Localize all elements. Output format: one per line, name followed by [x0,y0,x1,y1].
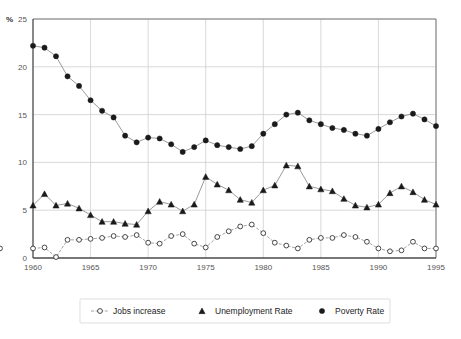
data-point [261,231,266,236]
data-point [157,198,163,204]
data-point [88,98,93,103]
data-point [203,138,208,143]
data-point [100,236,105,241]
series-unemployment-rate [30,162,439,227]
data-point [77,237,82,242]
data-point [65,74,70,79]
data-point [65,237,70,242]
data-point [260,187,266,193]
data-point [284,112,289,117]
y-tick-label: 0 [23,254,28,263]
data-point [388,249,393,254]
data-point [422,246,427,251]
data-point [215,143,220,148]
data-point [364,133,369,138]
data-point [411,239,416,244]
y-tick-label: 10 [18,158,27,167]
data-point [272,122,277,127]
data-point [215,235,220,240]
data-point [226,145,231,150]
data-point [272,182,278,188]
data-point [0,246,2,251]
data-point [330,236,335,241]
data-point [421,197,427,203]
data-point [180,208,186,214]
data-point [123,235,128,240]
data-point [330,125,335,130]
data-point [284,243,289,248]
data-point [64,200,70,206]
data-point [214,181,220,187]
data-point [169,142,174,147]
series-line [33,225,436,258]
data-point [42,245,47,250]
data-point [307,118,312,123]
data-point [88,236,93,241]
data-point [283,162,289,168]
data-point [272,240,277,245]
data-point [410,189,416,195]
chart-container: 0510152025%19601965197019751980198519901… [0,0,461,339]
series-line [33,165,436,224]
data-point [76,83,81,88]
data-point [31,246,36,251]
data-point [249,222,254,227]
data-point [422,117,427,122]
data-point [191,201,197,207]
data-point [376,246,381,251]
data-point [352,202,358,208]
x-tick-label: 1960 [24,263,42,272]
data-point [169,234,174,239]
data-point [157,241,162,246]
data-point [87,212,93,218]
data-point [307,237,312,242]
y-tick-label: 20 [18,63,27,72]
data-point [238,224,243,229]
x-tick-label: 1985 [312,263,330,272]
data-point [387,120,392,125]
data-point [111,115,116,120]
data-point [99,108,104,113]
data-point [341,233,346,238]
data-point [53,54,58,59]
x-tick-label: 1970 [139,263,157,272]
data-point [306,183,312,189]
legend-marker-open-circle [98,309,103,314]
data-point [180,232,185,237]
y-tick-label: 15 [18,111,27,120]
data-point [353,131,358,136]
x-tick-label: 1995 [427,263,445,272]
data-point [295,246,300,251]
data-point [376,126,381,131]
x-tick-label: 1980 [254,263,272,272]
data-point [238,146,243,151]
data-point [157,136,162,141]
legend-label: Poverty Rate [335,306,384,316]
data-point [341,196,347,202]
data-point [54,255,59,260]
data-point [192,241,197,246]
data-point [249,144,254,149]
plot-border [33,19,436,258]
data-point [76,205,82,211]
legend-label: Jobs increase [113,306,166,316]
data-point [134,233,139,238]
data-point [226,229,231,234]
data-point [261,131,266,136]
legend-marker-filled-circle [319,308,324,313]
data-point [399,114,404,119]
data-point [365,239,370,244]
data-point [30,43,35,48]
y-tick-label: 5 [23,206,28,215]
data-point [399,248,404,253]
data-point [318,236,323,241]
data-point [433,123,438,128]
data-point [341,127,346,132]
x-tick-label: 1990 [370,263,388,272]
data-point [146,135,151,140]
x-tick-label: 1975 [197,263,215,272]
data-point [146,240,151,245]
legend-label: Unemployment Rate [215,306,293,316]
data-point [41,191,47,197]
data-point [192,145,197,150]
